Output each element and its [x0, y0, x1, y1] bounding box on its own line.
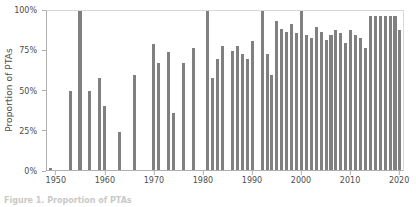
- bar: [98, 78, 101, 170]
- x-axis-tick-mark: [104, 171, 105, 175]
- bar: [167, 52, 170, 170]
- bar-slot: [397, 11, 402, 170]
- x-axis-tick-mark: [300, 171, 301, 175]
- x-axis-tick-mark: [399, 171, 400, 175]
- bar: [133, 75, 136, 170]
- bar: [329, 35, 332, 170]
- x-axis-tick: 2010: [340, 171, 360, 185]
- bar: [236, 46, 239, 170]
- y-axis-tick-label: 75%: [19, 47, 37, 55]
- x-axis-tick-label: 1950: [46, 176, 66, 185]
- x-axis-tick-label: 2010: [340, 176, 360, 185]
- x-axis-tick: 2000: [291, 171, 311, 185]
- bar: [320, 32, 323, 170]
- bar: [78, 11, 81, 170]
- x-axis-tick: 1960: [95, 171, 115, 185]
- bar: [379, 16, 382, 170]
- bar: [118, 132, 121, 170]
- bar: [369, 16, 372, 170]
- bar: [246, 59, 249, 170]
- bar: [389, 16, 392, 170]
- bar: [103, 106, 106, 170]
- bar: [334, 30, 337, 170]
- y-axis-tick-label: 25%: [19, 127, 37, 135]
- x-axis-tick-mark: [350, 171, 351, 175]
- bar: [374, 16, 377, 170]
- x-axis-tick-mark: [202, 171, 203, 175]
- bar: [310, 38, 313, 170]
- bar: [270, 75, 273, 170]
- bar: [88, 91, 91, 171]
- bar: [152, 44, 155, 170]
- x-axis-tick-label: 2000: [291, 176, 311, 185]
- bar: [69, 91, 72, 171]
- x-axis-tick: 1970: [144, 171, 164, 185]
- bar: [300, 11, 303, 170]
- x-axis-tick: 1980: [193, 171, 213, 185]
- y-axis-title-label: Proportion of PTAs: [4, 48, 14, 132]
- bar: [206, 11, 209, 170]
- bar: [182, 63, 185, 170]
- x-axis-tick-mark: [251, 171, 252, 175]
- y-axis-tick-label: 50%: [19, 87, 37, 95]
- y-axis-tick-label: 0%: [24, 168, 37, 176]
- bar: [157, 63, 160, 170]
- bar: [398, 30, 401, 170]
- bar: [251, 41, 254, 170]
- bar: [231, 51, 234, 170]
- bar: [349, 30, 352, 170]
- bar: [325, 40, 328, 170]
- bar: [241, 54, 244, 170]
- bar: [354, 35, 357, 170]
- bar: [266, 54, 269, 170]
- x-axis-tick: 2020: [389, 171, 409, 185]
- bar: [221, 46, 224, 170]
- bar: [49, 168, 52, 170]
- x-axis-tick-mark: [55, 171, 56, 175]
- plot-area: [46, 10, 404, 171]
- bar: [290, 24, 293, 170]
- figure-container: Proportion of PTAs 100%75%50%25%0% 19501…: [0, 0, 416, 207]
- bar: [315, 27, 318, 170]
- bar: [384, 16, 387, 170]
- x-axis-tick-label: 2020: [389, 176, 409, 185]
- y-axis-tick-label: 100%: [14, 7, 37, 15]
- x-axis-tick-mark: [153, 171, 154, 175]
- bar-series: [47, 11, 403, 170]
- x-axis-tick-label: 1960: [95, 176, 115, 185]
- bar: [359, 38, 362, 170]
- bar: [305, 35, 308, 170]
- bar: [216, 59, 219, 170]
- bar: [393, 16, 396, 170]
- x-axis-tick-label: 1970: [144, 176, 164, 185]
- bar: [285, 32, 288, 170]
- figure-caption: Figure 1. Proportion of PTAs: [4, 196, 304, 207]
- x-axis-tick: 1950: [46, 171, 66, 185]
- x-axis-tick-label: 1980: [193, 176, 213, 185]
- x-axis-tick: 1990: [242, 171, 262, 185]
- bar: [280, 29, 283, 171]
- bar: [172, 113, 175, 170]
- bar: [211, 78, 214, 170]
- bar: [344, 43, 347, 170]
- x-axis-tick-label: 1990: [242, 176, 262, 185]
- bar: [339, 33, 342, 170]
- bar: [295, 33, 298, 170]
- bar: [364, 48, 367, 170]
- y-axis-title: Proportion of PTAs: [0, 0, 18, 180]
- bar: [192, 48, 195, 170]
- bar: [275, 21, 278, 170]
- bar: [261, 11, 264, 170]
